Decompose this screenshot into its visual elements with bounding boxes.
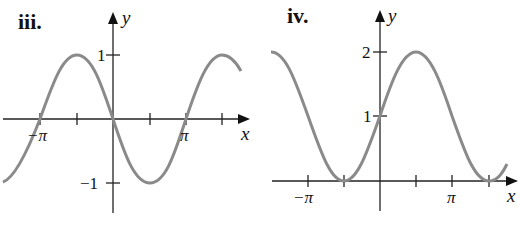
x-axis-label: x: [506, 185, 516, 206]
y-tick-label-1: 1: [363, 107, 372, 126]
y-axis-arrow-icon: [375, 10, 385, 22]
panel-label: iii.: [18, 9, 42, 34]
x-axis-label: x: [240, 123, 250, 144]
y-axis-label: y: [386, 5, 397, 26]
y-axis-arrow-icon: [108, 12, 118, 24]
chart-panel-iii: iii. −π π 1 −1 x y: [3, 7, 250, 213]
figure: iii. −π π 1 −1 x y iv.: [0, 0, 518, 227]
x-tick-label-neg-pi: −π: [293, 188, 313, 207]
x-tick-label-neg-pi: −π: [27, 126, 47, 145]
y-tick-label-1: 1: [97, 46, 106, 65]
x-tick-label-pi: π: [180, 126, 189, 145]
y-axis-label: y: [120, 7, 131, 28]
chart-panel-iv: iv. −π π 2 1 x y: [271, 3, 518, 211]
y-tick-label-neg1: −1: [80, 174, 98, 193]
curve: [271, 52, 507, 181]
y-tick-label-2: 2: [362, 43, 371, 62]
panel-label: iv.: [287, 3, 308, 28]
x-tick-label-pi: π: [447, 188, 456, 207]
